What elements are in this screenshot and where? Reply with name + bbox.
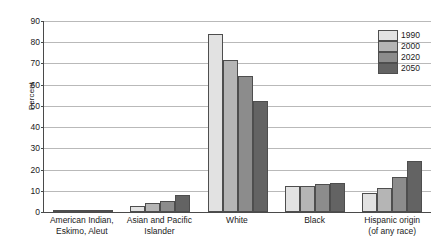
bar xyxy=(98,210,113,212)
bar xyxy=(407,161,422,212)
bar xyxy=(223,60,238,212)
bar xyxy=(175,195,190,212)
x-axis-category-line: (of any race) xyxy=(353,226,431,237)
bar-group xyxy=(199,21,276,212)
legend: 1990200020202050 xyxy=(378,30,420,74)
x-axis-category-label: Asian and PacificIslander xyxy=(121,215,199,237)
legend-item: 2020 xyxy=(378,52,420,63)
y-axis-title: Percent xyxy=(27,61,36,131)
y-tick-label: 20 xyxy=(31,166,40,175)
y-tick-label: 10 xyxy=(31,187,40,196)
plot-area: 0102030405060708090 xyxy=(43,21,431,213)
y-tick-label: 90 xyxy=(31,17,40,26)
bar xyxy=(253,101,268,212)
x-axis-category-line: Asian and Pacific xyxy=(121,215,199,226)
bar-group xyxy=(44,21,121,212)
legend-swatch xyxy=(378,52,398,63)
bar xyxy=(83,210,98,212)
x-axis-category-label: Black xyxy=(276,215,354,237)
bar xyxy=(68,210,83,212)
legend-item: 2050 xyxy=(378,63,420,74)
bar xyxy=(53,210,68,212)
x-axis-category-line: Eskimo, Aleut xyxy=(43,226,121,237)
legend-swatch xyxy=(378,30,398,41)
bar xyxy=(160,201,175,212)
x-axis-category-line: Black xyxy=(276,215,354,226)
bar xyxy=(362,193,377,212)
y-tick-label: 80 xyxy=(31,38,40,47)
gridline: 0 xyxy=(44,212,431,213)
x-axis-category-line: White xyxy=(198,215,276,226)
x-axis-category-line: Islander xyxy=(121,226,199,237)
legend-label: 2020 xyxy=(401,53,420,62)
bar-chart: Percent 0102030405060708090 American Ind… xyxy=(0,0,448,242)
x-axis-category-label: Hispanic origin(of any race) xyxy=(353,215,431,237)
bar xyxy=(392,177,407,212)
legend-item: 2000 xyxy=(378,41,420,52)
bar xyxy=(238,76,253,212)
y-tick-label: 70 xyxy=(31,59,40,68)
x-axis-category-line: Hispanic origin xyxy=(353,215,431,226)
bar xyxy=(377,188,392,212)
y-tick-label: 40 xyxy=(31,123,40,132)
bar xyxy=(208,34,223,212)
y-tick-label: 0 xyxy=(35,208,40,217)
y-tick-label: 50 xyxy=(31,102,40,111)
bar xyxy=(285,186,300,212)
y-tick-label: 60 xyxy=(31,81,40,90)
bar xyxy=(315,184,330,212)
y-tick-mark xyxy=(41,212,44,213)
x-axis-labels: American Indian,Eskimo, AleutAsian and P… xyxy=(43,215,431,237)
x-axis-category-line: American Indian, xyxy=(43,215,121,226)
bar-group xyxy=(276,21,353,212)
bar xyxy=(300,186,315,212)
x-axis-category-label: White xyxy=(198,215,276,237)
bar xyxy=(330,183,345,212)
legend-swatch xyxy=(378,63,398,74)
legend-label: 2000 xyxy=(401,42,420,51)
bar xyxy=(130,206,145,212)
bar-groups xyxy=(44,21,431,212)
legend-item: 1990 xyxy=(378,30,420,41)
bar xyxy=(145,203,160,212)
x-axis-category-label: American Indian,Eskimo, Aleut xyxy=(43,215,121,237)
y-tick-label: 30 xyxy=(31,144,40,153)
legend-swatch xyxy=(378,41,398,52)
legend-label: 2050 xyxy=(401,64,420,73)
legend-label: 1990 xyxy=(401,31,420,40)
bar-group xyxy=(121,21,198,212)
